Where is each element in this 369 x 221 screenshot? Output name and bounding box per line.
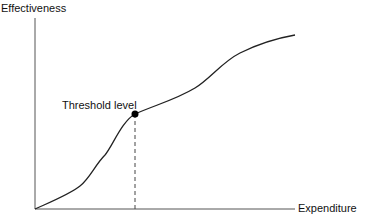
threshold-marker (132, 111, 139, 118)
chart-canvas (0, 0, 369, 221)
x-axis-label: Expenditure (298, 203, 357, 214)
effectiveness-expenditure-diagram: Effectiveness Expenditure Threshold leve… (0, 0, 369, 221)
y-axis-label: Effectiveness (1, 3, 66, 14)
threshold-label: Threshold level (62, 100, 137, 111)
effectiveness-curve (35, 35, 295, 209)
